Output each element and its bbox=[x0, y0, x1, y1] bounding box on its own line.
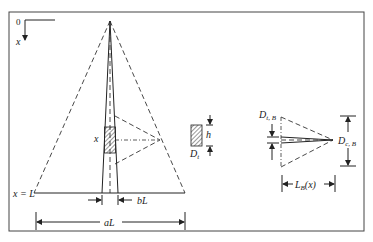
element-detail: h Dt bbox=[189, 115, 213, 161]
outer-cone-left-edge bbox=[34, 21, 110, 193]
projection-lower bbox=[115, 140, 160, 164]
bl-dimension: bL bbox=[88, 195, 148, 206]
right-view: Dt, B Dc, B LB(x) bbox=[258, 109, 357, 192]
outer-cone bbox=[34, 21, 185, 193]
jet-element bbox=[105, 127, 116, 153]
al-label: aL bbox=[104, 217, 115, 228]
dtb-label: Dt, B bbox=[258, 109, 277, 122]
figure-frame bbox=[9, 12, 364, 231]
outer-cone-bottom bbox=[281, 140, 333, 167]
inner-jet bbox=[102, 21, 118, 193]
jet-diagram: 0 x x x = L bL aL bbox=[0, 0, 373, 242]
element-projection bbox=[115, 116, 160, 164]
lb-label: LB(x) bbox=[294, 179, 317, 192]
outer-cone-right-edge bbox=[110, 21, 185, 193]
h-label: h bbox=[206, 129, 211, 140]
base-label: x = L bbox=[12, 188, 35, 199]
axis-x-label: x bbox=[15, 36, 21, 47]
outer-cone-top bbox=[281, 117, 333, 140]
al-dimension: aL bbox=[36, 212, 185, 230]
inner-jet-right-edge bbox=[110, 21, 118, 193]
element-x-label: x bbox=[93, 133, 99, 144]
detail-element bbox=[191, 125, 202, 146]
inner-jet-left-edge bbox=[102, 21, 110, 193]
bl-label: bL bbox=[137, 195, 148, 206]
axis-indicator: 0 x bbox=[15, 17, 55, 47]
axis-origin-label: 0 bbox=[16, 17, 21, 27]
dcb-label: Dc, B bbox=[337, 135, 357, 148]
dt-label: Dt bbox=[189, 148, 200, 161]
